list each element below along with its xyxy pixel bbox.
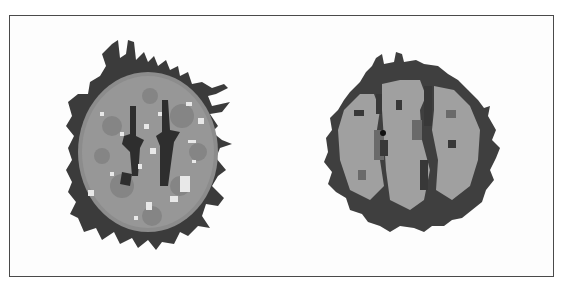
dark-dot xyxy=(380,130,386,136)
brain-image-right xyxy=(320,50,505,245)
tissue-region xyxy=(338,80,480,210)
brain-image-left xyxy=(62,36,257,256)
